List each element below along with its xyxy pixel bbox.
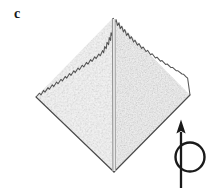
rotation-axis-indicator [176, 120, 205, 189]
rotation-arrow-head [176, 120, 185, 134]
figure-panel: c [0, 0, 217, 191]
specimen-right-half [110, 12, 196, 178]
right-half-texture [110, 12, 196, 178]
central-crease [112, 19, 115, 171]
specimen-left-half [30, 12, 122, 178]
left-half-texture [30, 12, 122, 178]
figure-graphic [0, 0, 217, 191]
